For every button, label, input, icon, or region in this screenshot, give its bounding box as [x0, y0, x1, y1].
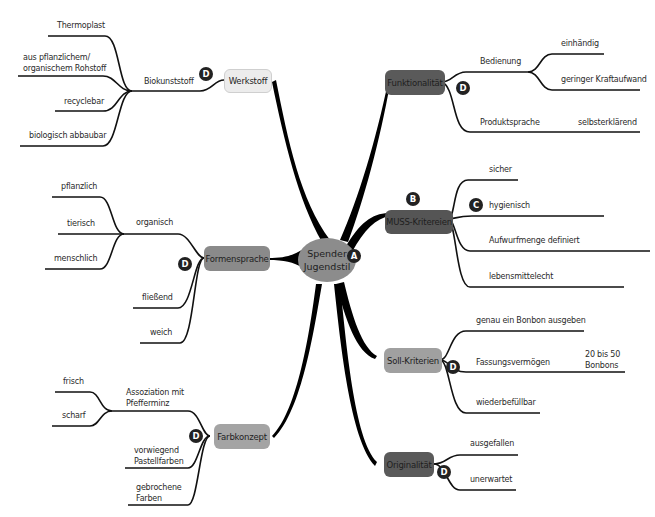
badge-d-farbkonzept: D	[189, 429, 203, 443]
sub-organisch: organisch	[136, 217, 173, 229]
leaf-wiederbefuellbar: wiederbefüllbar	[476, 397, 536, 409]
badge-d-formensprache: D	[178, 257, 192, 271]
leaf-ausgefallen: ausgefallen	[470, 438, 514, 450]
leaf-frisch: frisch	[63, 376, 84, 388]
badge-b: B	[406, 192, 420, 206]
node-funktionalitaet[interactable]: Funktionalität	[385, 70, 445, 95]
branch-originalitaet	[334, 284, 377, 466]
leaf-hygienisch: hygienisch	[489, 200, 530, 212]
leaf-fliessend: fließend	[142, 292, 173, 304]
leaf-pflanzlich: pflanzlich	[61, 181, 97, 193]
badge-d-originalitaet: D	[437, 465, 451, 479]
branch-farbkonzept	[272, 284, 322, 438]
node-originalitaet-label: Originalität	[386, 460, 431, 470]
node-soll-kriterien[interactable]: Soll-Kriterien	[384, 348, 442, 373]
badge-d-soll: D	[446, 360, 460, 374]
node-farbkonzept[interactable]: Farbkonzept	[214, 424, 270, 449]
node-formensprache-label: Formensprache	[205, 254, 268, 264]
leaf-lebensmittelecht: lebensmittelecht	[489, 271, 553, 283]
node-farbkonzept-label: Farbkonzept	[217, 432, 267, 442]
leaf-genau-ein-bonbon: genau ein Bonbon ausgeben	[476, 315, 586, 327]
node-werkstoff[interactable]: Werkstoff	[224, 69, 272, 93]
sub-bedienung: Bedienung	[480, 56, 521, 68]
leaf-unerwartet: unerwartet	[470, 474, 512, 486]
leaf-pflanzlich-rohstoff-2: organischem Rohstoff	[23, 63, 106, 75]
leaf-biologisch-abbaubar: biologisch abbaubar	[29, 130, 106, 142]
leaf-einhaendig: einhändig	[561, 38, 599, 50]
badge-d-werkstoff: D	[199, 67, 213, 81]
node-muss-kriterien-label: MUSS-Kritereien	[386, 217, 452, 227]
leaf-selbsterklaerend: selbsterklärend	[578, 117, 637, 129]
sub-assoziation-line2: Pfefferminz	[126, 398, 169, 410]
central-topic-line2: Jugendstil	[304, 260, 351, 273]
central-topic-line1: Spender	[304, 247, 351, 260]
leaf-recyclebar: recyclebar	[64, 96, 104, 108]
sub-produktsprache: Produktsprache	[480, 117, 540, 129]
leaf-thermoplast: Thermoplast	[57, 20, 105, 32]
node-soll-kriterien-label: Soll-Kriterien	[387, 356, 439, 366]
leaf-scharf: scharf	[62, 410, 85, 422]
node-formensprache[interactable]: Formensprache	[204, 246, 270, 271]
leaf-menschlich: menschlich	[54, 253, 97, 265]
node-funktionalitaet-label: Funktionalität	[387, 78, 442, 88]
leaf-weich: weich	[150, 327, 172, 339]
leaf-pastellfarben-line2: Pastellfarben	[134, 456, 184, 468]
leaf-sicher: sicher	[489, 164, 512, 176]
badge-c: C	[469, 198, 483, 212]
sub-biokunststoff: Biokunststoff	[144, 76, 194, 88]
node-originalitaet[interactable]: Originalität	[384, 452, 434, 477]
leaf-tierisch: tierisch	[67, 218, 95, 230]
leaf-20-bis-50-line2: Bonbons	[585, 360, 618, 372]
badge-a: A	[347, 249, 361, 263]
node-werkstoff-label: Werkstoff	[229, 76, 268, 86]
leaf-fassungsvermoegen: Fassungsvermögen	[476, 357, 550, 369]
node-muss-kriterien[interactable]: MUSS-Kritereien	[385, 210, 453, 234]
leaf-gebrochene-line2: Farben	[136, 493, 162, 505]
leaf-aufwurfmenge: Aufwurfmenge definiert	[489, 235, 580, 247]
branch-werkstoff	[272, 80, 330, 242]
badge-d-funktionalitaet: D	[456, 81, 470, 95]
leaf-geringer-kraftaufwand: geringer Kraftaufwand	[561, 74, 647, 86]
